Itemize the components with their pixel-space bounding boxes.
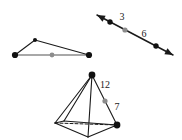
pyramid-apex-to-back-edge <box>64 75 92 121</box>
triangle-right-vertex-dot <box>86 52 92 58</box>
pyramid-apex-to-front-edge <box>88 75 92 137</box>
arrow-segment-label-6: 6 <box>142 28 147 39</box>
triangle-right-edge <box>35 40 89 55</box>
pyramid-base-left-front-edge <box>55 123 88 137</box>
triangle-left-vertex-dot <box>12 52 18 58</box>
arrow-segment-label-3: 3 <box>120 11 125 22</box>
geometry-diagram: 3 6 12 7 <box>0 0 182 140</box>
pyramid-apex-to-left-edge <box>55 75 92 123</box>
triangle-base-midpoint-dot <box>50 53 55 58</box>
arrow-upper-point-dot <box>107 19 112 24</box>
diagram-canvas: 3 6 12 7 <box>0 0 182 140</box>
triangle-left-edge <box>15 40 35 55</box>
pyramid-right-vertex-dot <box>114 122 121 129</box>
triangle-apex-vertex-dot <box>33 38 37 42</box>
pyramid-base-front-right-edge <box>88 125 117 137</box>
pyramid-apex-vertex-dot <box>89 72 96 79</box>
triangle-figure <box>12 38 92 58</box>
pyramid-edge-midpoint-dot <box>102 98 107 103</box>
arrow-line-figure: 3 6 <box>97 11 173 55</box>
pyramid-figure: 12 7 <box>55 72 120 137</box>
arrow-lower-point-dot <box>153 43 158 48</box>
pyramid-edge-label-7: 7 <box>115 101 120 112</box>
pyramid-edge-label-12: 12 <box>100 79 110 90</box>
arrow-midpoint-dot <box>122 27 127 32</box>
